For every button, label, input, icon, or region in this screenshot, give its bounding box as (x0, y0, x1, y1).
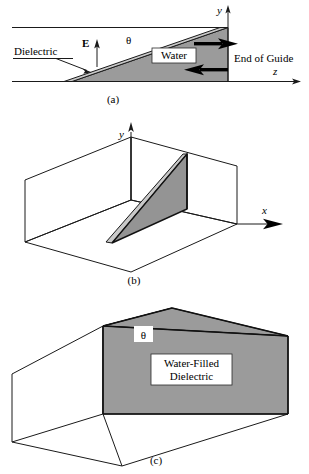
x-axis-label-b: x (261, 204, 267, 216)
e-field-label: E (82, 37, 89, 49)
water-label: Water (161, 49, 187, 61)
water-filled-dielectric-line1: Water-Filled (164, 357, 220, 369)
waveguide-floor (25, 200, 237, 272)
panel-c: θ Water-Filled Dielectric (c) (0, 290, 309, 474)
figure-container: y z E θ Dielectric Water (0, 0, 309, 474)
guide-front-vertical-edge (103, 414, 122, 466)
guide-bottom-front-edge (12, 442, 122, 466)
guide-bottom-right-edge (122, 414, 288, 466)
panel-a-drawing: y z E θ Dielectric Water (0, 0, 309, 112)
panel-b: y x (b) (0, 112, 309, 290)
y-axis-arrowhead-b (128, 122, 134, 132)
theta-label-c: θ (141, 329, 146, 341)
panel-c-caption: (c) (150, 454, 163, 467)
panel-a: y z E θ Dielectric Water (0, 0, 309, 112)
y-axis-label-b: y (118, 128, 124, 140)
guide-open-end (12, 326, 103, 442)
panel-c-drawing: θ Water-Filled Dielectric (c) (0, 290, 309, 474)
z-axis-label: z (272, 65, 278, 77)
wedge-water-body (112, 154, 187, 243)
panel-b-caption: (b) (128, 274, 141, 287)
water-filled-dielectric-line2: Dielectric (170, 370, 213, 382)
theta-label-a: θ (126, 34, 131, 46)
panel-b-drawing: y x (b) (0, 112, 309, 290)
end-of-guide-label: End of Guide (234, 52, 293, 64)
dielectric-label: Dielectric (14, 45, 57, 57)
y-axis-label: y (216, 4, 222, 16)
dielectric-leader-line (56, 59, 87, 71)
waveguide-left-wall (25, 137, 131, 242)
panel-a-caption: (a) (107, 93, 120, 106)
